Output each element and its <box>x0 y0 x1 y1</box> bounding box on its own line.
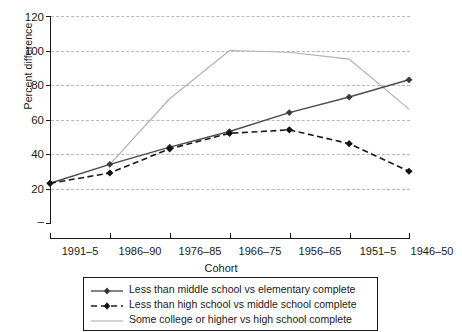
x-axis-tick-labels: 1991–5 1986–90 1976–85 1966–75 1956–65 1… <box>0 245 462 263</box>
legend-item-less-than-high-school: Less than high school vs middle school c… <box>90 296 371 311</box>
data-point-marker <box>405 168 412 175</box>
y-tick-label-120: 120 <box>12 12 44 24</box>
series-less-than-high-school <box>46 126 412 187</box>
y-tick-label-100: 100 <box>12 46 44 58</box>
x-axis-line <box>50 238 410 239</box>
y-tick-label-60: 60 <box>12 115 44 127</box>
legend-label-1: Less than high school vs middle school c… <box>129 298 357 310</box>
data-point-marker <box>106 169 113 176</box>
x-axis-title-text: Cohort <box>204 262 237 274</box>
series-some-college-or-higher <box>110 51 409 165</box>
legend-key-thin-grey-line-icon <box>90 313 124 325</box>
y-tick-label-0: – <box>12 216 44 228</box>
series-line <box>50 130 409 183</box>
chart-legend: Less than middle school vs elementary co… <box>83 277 378 331</box>
data-point-marker <box>406 76 413 83</box>
y-tick-label-80: 80 <box>12 80 44 92</box>
data-series-layer <box>50 16 410 223</box>
data-point-marker <box>346 140 353 147</box>
data-point-marker <box>46 180 53 187</box>
series-line <box>110 51 409 165</box>
legend-key-solid-diamond-icon <box>90 283 124 295</box>
legend-item-some-college-or-higher: Some college or higher vs high school co… <box>90 311 371 326</box>
legend-key-dashed-diamond-icon <box>90 298 124 310</box>
line-chart: Percent difference 120 100 80 60 40 20 – <box>0 0 462 332</box>
y-axis-tick-labels: 120 100 80 60 40 20 – <box>10 0 44 332</box>
x-tick-mark-1 <box>110 233 111 238</box>
legend-label-2: Some college or higher vs high school co… <box>129 313 352 325</box>
data-point-marker <box>286 109 293 116</box>
x-tick-mark-5 <box>350 233 351 238</box>
y-tick-mark-0 <box>46 223 51 224</box>
y-tick-label-40: 40 <box>12 149 44 161</box>
legend-item-less-than-middle-school: Less than middle school vs elementary co… <box>90 281 371 296</box>
y-tick-label-20: 20 <box>12 184 44 196</box>
x-tick-label-1946-50: 1946–50 <box>397 245 462 257</box>
data-point-marker <box>286 126 293 133</box>
x-tick-mark-4 <box>290 233 291 238</box>
legend-label-0: Less than middle school vs elementary co… <box>129 283 355 295</box>
x-tick-mark-3 <box>230 233 231 238</box>
x-tick-mark-2 <box>170 233 171 238</box>
x-axis-title: Cohort <box>0 262 462 274</box>
x-tick-mark-0 <box>50 233 51 238</box>
x-tick-mark-6 <box>409 233 410 238</box>
data-point-marker <box>346 94 353 101</box>
